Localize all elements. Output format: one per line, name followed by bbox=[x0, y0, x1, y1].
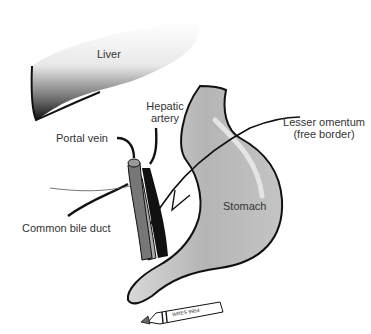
label-lesser-omentum-line1: Lesser omentum bbox=[274, 116, 371, 128]
bile-duct-pointer bbox=[68, 184, 128, 216]
label-liver: Liver bbox=[97, 48, 121, 60]
label-lesser-omentum: Lesser omentum (free border) bbox=[274, 116, 371, 140]
label-hepatic-artery-line1: Hepatic bbox=[140, 100, 190, 112]
hepatic-artery-pointer bbox=[150, 128, 156, 164]
label-hepatic-artery: Hepatic artery bbox=[140, 100, 190, 124]
label-stomach: Stomach bbox=[223, 200, 266, 212]
portal-vein-pointer bbox=[117, 138, 134, 158]
label-portal-vein: Portal vein bbox=[56, 132, 108, 144]
diagram-canvas bbox=[0, 0, 371, 334]
label-lesser-omentum-line2: (free border) bbox=[274, 128, 371, 140]
label-common-bile-duct: Common bile duct bbox=[22, 222, 111, 234]
label-hepatic-artery-line2: artery bbox=[140, 112, 190, 124]
portal-triad bbox=[128, 159, 190, 260]
